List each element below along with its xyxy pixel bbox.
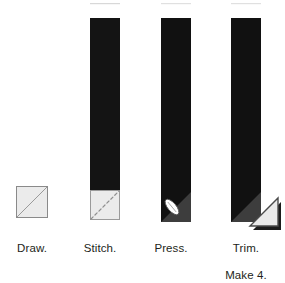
step-press-caption: Press. (137, 228, 205, 269)
top-edge-artifact (90, 3, 120, 4)
step-press-illustration (137, 0, 205, 230)
step-draw-illustration (0, 0, 64, 230)
step-trim-illustration (207, 0, 285, 236)
trim-artwork-svg (207, 0, 285, 236)
step-panel-trim: Trim. Make 4. (207, 0, 285, 266)
stitch-artwork-svg (66, 0, 134, 230)
step-draw-label: Draw. (0, 242, 64, 256)
top-edge-artifact (231, 3, 261, 4)
step-trim-make-count: Make 4. (207, 269, 285, 283)
step-trim-label: Trim. (207, 242, 285, 256)
step-panel-stitch: Stitch. (66, 0, 134, 266)
step-press-label: Press. (137, 242, 205, 256)
step-stitch-illustration (66, 0, 134, 230)
step-trim-caption: Trim. Make 4. (207, 228, 285, 283)
step-draw-caption: Draw. (0, 228, 64, 269)
step-stitch-label: Stitch. (66, 242, 134, 256)
dark-strip (161, 18, 191, 222)
dark-strip (231, 18, 261, 222)
step-panel-draw: Draw. (0, 0, 64, 266)
draw-artwork-svg (0, 0, 64, 230)
top-edge-artifact (161, 3, 191, 4)
step-panel-press: Press. (137, 0, 205, 266)
press-artwork-svg (137, 0, 205, 230)
dark-strip (90, 18, 120, 190)
step-stitch-caption: Stitch. (66, 228, 134, 269)
